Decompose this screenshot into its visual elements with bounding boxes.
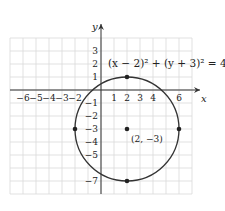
y-tick-label: −5	[85, 150, 99, 160]
point-marker	[73, 127, 78, 132]
center-label: (2, −3)	[131, 134, 163, 144]
circle-graph: −6−5−4−3−212346321−1−2−3−4−5−7 (x − 2)² …	[0, 0, 225, 211]
y-tick-label: −7	[85, 176, 99, 186]
axes	[10, 24, 200, 194]
x-axis-label: x	[201, 93, 207, 104]
x-tick-label: 1	[111, 93, 117, 103]
x-tick-label: 2	[124, 93, 130, 103]
x-tick-label: −3	[55, 93, 69, 103]
y-tick-label: −2	[85, 111, 98, 121]
x-tick-label: 6	[176, 93, 182, 103]
equation-label: (x − 2)² + (y + 3)² = 4²	[108, 57, 225, 69]
x-tick-label: 4	[150, 93, 156, 103]
y-axis-label: y	[91, 21, 98, 32]
x-tick-label: 3	[137, 93, 143, 103]
x-tick-label: −2	[68, 93, 81, 103]
point-marker	[125, 127, 130, 132]
x-tick-label: −4	[42, 93, 56, 103]
point-marker	[125, 179, 130, 184]
y-tick-label: −3	[85, 124, 99, 134]
y-tick-label: −4	[85, 137, 99, 147]
y-tick-label: 1	[92, 72, 98, 82]
y-tick-label: 3	[92, 46, 98, 56]
y-tick-label: 2	[92, 59, 98, 69]
x-tick-label: −5	[29, 93, 43, 103]
point-marker	[177, 127, 182, 132]
x-tick-label: −6	[16, 93, 30, 103]
point-marker	[125, 75, 130, 80]
y-tick-label: −1	[85, 98, 98, 108]
